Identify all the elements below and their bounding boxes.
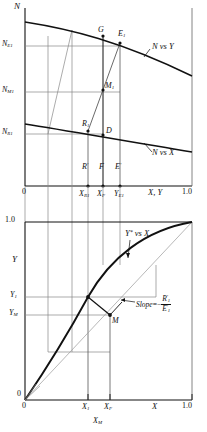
lower-xtick-one: 1.0 — [182, 402, 192, 410]
segment-M-to-slope — [110, 302, 122, 315]
point-R1 — [86, 129, 89, 132]
curve-label-n-vs-x: N vs X — [152, 148, 174, 157]
point-G — [101, 34, 104, 37]
slope-annotation: Slope=−R'1E'1 — [136, 295, 171, 313]
ytick-NM1: NM1 — [2, 86, 14, 95]
origin-fan-2 — [25, 384, 36, 400]
inter-panel-tielines — [25, 186, 120, 352]
point-label-Eprime: E' — [115, 163, 121, 171]
point-label-D: D — [106, 127, 112, 135]
lower-xtick-origin: 0 — [22, 402, 26, 410]
lower-y-axis-title: Y — [12, 255, 17, 264]
upper-y-axis-title: N — [14, 2, 20, 11]
ytick-NE1: NE1 — [2, 40, 13, 49]
lower-xtick-XM: XM — [93, 417, 102, 426]
lower-xtick-X1: X1 — [82, 403, 89, 412]
curve-label-n-vs-y: N vs Y — [152, 42, 174, 51]
point-label-E1: E1 — [118, 30, 125, 39]
leader-y-star-arrowhead — [126, 253, 130, 258]
lower-ytick-YM: YM — [9, 309, 18, 318]
ytick-NR1: NR1 — [2, 128, 13, 137]
upper-xtick-one: 1.0 — [182, 188, 192, 196]
upper-tie-line-R1E1 — [88, 43, 120, 131]
upper-xtick-origin: 0 — [22, 188, 26, 196]
point-label-R1: R1 — [82, 120, 89, 129]
point-label-M: M — [112, 317, 119, 325]
upper-panel — [25, 8, 192, 188]
point-label-Rprime: R' — [82, 163, 88, 171]
point-label-G: G — [98, 26, 104, 34]
point-D — [101, 133, 104, 136]
point-X1-Y1 — [86, 295, 90, 299]
point-label-M1: M1 — [105, 82, 114, 91]
upper-x-axis-title: X, Y — [148, 188, 162, 197]
curve-label-y-star-vs-x: Y* vs X — [125, 229, 149, 238]
lower-xtick-XF: XF — [104, 403, 112, 412]
lower-ytick-Y1: Y1 — [10, 291, 17, 300]
slope-arrowhead — [121, 298, 125, 302]
lower-origin-label: 0 — [17, 390, 21, 398]
lower-x-axis-title: X — [152, 402, 157, 411]
upper-xtick-XR1: XR1 — [79, 190, 89, 199]
point-label-F: F — [99, 163, 104, 171]
point-E1 — [118, 41, 121, 44]
segment-P-to-M — [88, 297, 110, 315]
lower-ytick-one: 1.0 — [5, 216, 15, 224]
figure-root — [0, 0, 207, 432]
upper-tie-line-left — [48, 30, 72, 134]
upper-xtick-YE1: YE1 — [114, 190, 124, 199]
upper-xtick-XF: XF — [97, 190, 105, 199]
